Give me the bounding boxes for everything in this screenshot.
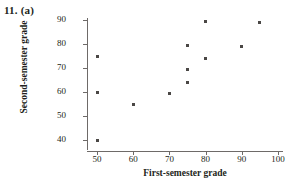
x-tick-label-60: 60 (121, 154, 145, 164)
y-tick-80 (83, 44, 87, 45)
x-axis-title: First-semester grade (87, 168, 283, 178)
x-tick-label-100: 100 (266, 154, 290, 164)
y-tick-label-70: 70 (57, 62, 66, 72)
data-point (96, 91, 99, 94)
x-axis-line (87, 151, 283, 152)
data-point (96, 55, 99, 58)
y-axis-line (87, 18, 88, 150)
x-tick-label-70: 70 (157, 154, 181, 164)
y-tick-90 (83, 20, 87, 21)
y-tick-label-40: 40 (57, 134, 66, 144)
y-axis-title: Second-semester grade (19, 0, 29, 137)
data-point (186, 81, 189, 84)
scatter-plot-figure: 11. (a) 405060708090 5060708090100 Secon… (0, 0, 298, 187)
y-tick-60 (83, 92, 87, 93)
data-point (240, 45, 243, 48)
y-tick-label-90: 90 (57, 14, 66, 24)
y-tick-70 (83, 68, 87, 69)
y-tick-40 (83, 140, 87, 141)
data-point (186, 44, 189, 47)
x-tick-label-90: 90 (230, 154, 254, 164)
data-point (204, 57, 207, 60)
data-point (204, 20, 207, 23)
x-tick-label-50: 50 (85, 154, 109, 164)
data-point (168, 92, 171, 95)
y-tick-label-50: 50 (57, 110, 66, 120)
plot-area: 405060708090 5060708090100 (0, 0, 298, 187)
y-tick-50 (83, 116, 87, 117)
data-point (132, 103, 135, 106)
data-point (96, 139, 99, 142)
data-point (186, 68, 189, 71)
data-point (258, 21, 261, 24)
y-tick-label-80: 80 (57, 38, 66, 48)
x-tick-label-80: 80 (194, 154, 218, 164)
y-tick-label-60: 60 (57, 86, 66, 96)
